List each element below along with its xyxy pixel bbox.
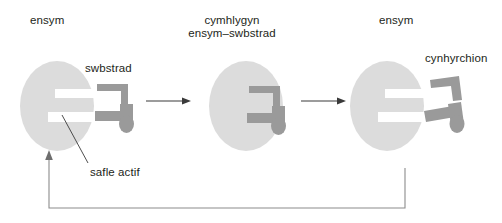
product-molecule-2 — [424, 102, 465, 133]
stage-3-enzyme-and-products — [350, 61, 465, 151]
active-site-notch-upper-1 — [55, 89, 94, 98]
active-site-notch-upper-3 — [385, 89, 424, 98]
diagram-graphics — [0, 0, 502, 223]
arrow-stage2-to-stage3 — [301, 97, 346, 104]
enzyme-body-1 — [20, 61, 94, 151]
recycle-arrow-enzyme-reused — [45, 150, 405, 208]
enzyme-body-3 — [350, 61, 424, 151]
active-site-notch-lower-1 — [48, 112, 94, 122]
stage-1-enzyme-and-substrate — [20, 61, 134, 151]
product-molecule-1 — [430, 76, 462, 101]
active-site-notch-lower-3 — [378, 112, 424, 122]
stage-2-enzyme-substrate-complex — [209, 61, 286, 151]
substrate-molecule — [95, 84, 134, 133]
arrow-stage1-to-stage2 — [146, 97, 191, 104]
enzyme-body-2 — [209, 61, 283, 151]
enzyme-action-diagram: ensym swbstrad cymhlygyn ensym–swbstrad … — [0, 0, 502, 223]
